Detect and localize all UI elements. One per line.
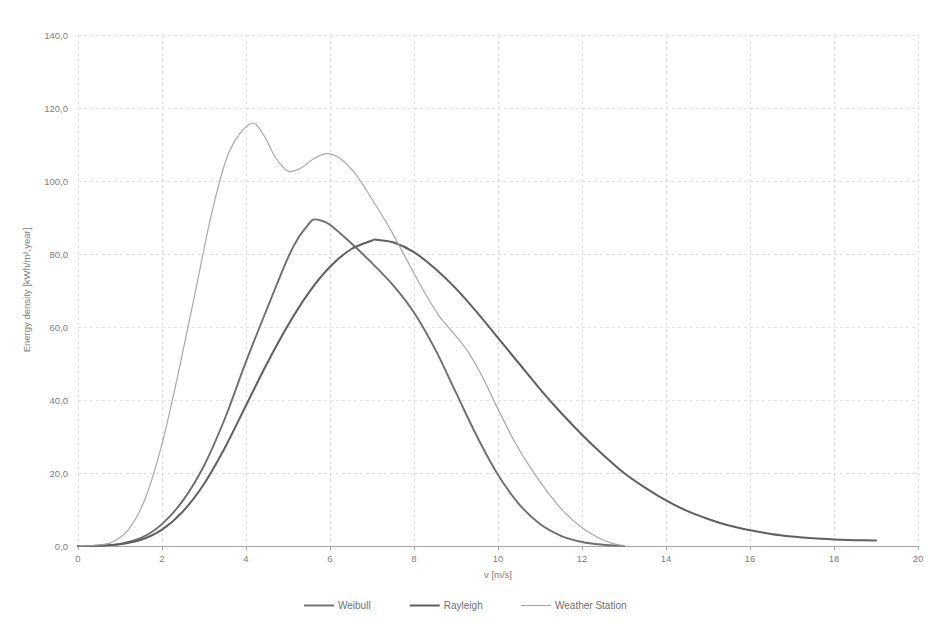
y-tick-label: 40,0 [50,395,69,406]
y-tick-label: 120,0 [44,103,68,114]
legend-label: Weibull [338,600,371,611]
legend-item-weather-station[interactable]: Weather Station [521,600,627,611]
x-tick-label: 2 [159,553,164,564]
series-line-weibull [78,219,624,546]
series-line-rayleigh [78,239,876,546]
energy-density-chart: 02468101214161820 0,020,040,060,080,0100… [0,0,940,641]
legend-label: Weather Station [555,600,627,611]
y-tick-label: 80,0 [50,249,69,260]
x-tick-label: 0 [75,553,80,564]
y-tick-label: 60,0 [50,322,69,333]
x-tick-label: 12 [577,553,588,564]
grid-lines [78,35,918,546]
y-tick-label: 20,0 [50,468,69,479]
x-tick-label: 6 [327,553,332,564]
y-tick-labels: 0,020,040,060,080,0100,0120,0140,0 [44,30,68,552]
x-tick-label: 16 [745,553,756,564]
y-tick-label: 0,0 [55,541,68,552]
x-tick-label: 10 [493,553,504,564]
x-tick-label: 14 [661,553,672,564]
x-tick-label: 18 [829,553,840,564]
series-line-weather-station [78,123,624,546]
axis-lines [78,546,918,550]
legend-label: Rayleigh [444,600,483,611]
y-tick-label: 140,0 [44,30,68,41]
y-axis-title: Energy density [kWh/m²,year] [21,228,32,353]
legend-item-weibull[interactable]: Weibull [304,600,371,611]
y-tick-label: 100,0 [44,176,68,187]
x-tick-label: 20 [913,553,924,564]
x-tick-label: 8 [411,553,416,564]
x-axis-title: v [m/s] [484,569,512,580]
chart-legend: WeibullRayleighWeather Station [304,600,627,611]
chart-canvas: 02468101214161820 0,020,040,060,080,0100… [0,0,940,641]
series-layer [78,123,876,546]
x-tick-label: 4 [243,553,248,564]
legend-item-rayleigh[interactable]: Rayleigh [410,600,483,611]
x-tick-labels: 02468101214161820 [75,553,923,564]
